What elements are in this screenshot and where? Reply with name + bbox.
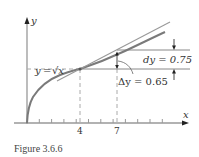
delta-y-arrow-down-icon	[115, 65, 119, 69]
tick-label-7: 7	[114, 126, 120, 136]
x-axis-arrow-icon	[182, 121, 189, 126]
figure-caption: Figure 3.6.6	[14, 143, 63, 154]
delta-y-label: Δy = 0.65	[118, 76, 168, 87]
tangent-line	[57, 22, 170, 81]
tangency-point	[78, 67, 81, 70]
dy-arrow-up-icon	[172, 69, 176, 74]
tick-label-4: 4	[77, 126, 83, 136]
svg-text:=: =	[43, 65, 51, 76]
x-axis-label: x	[183, 109, 189, 120]
figure-canvas: y x y = √x 4 7 dy = 0.75 Δy = 0.65 Figur…	[0, 0, 199, 157]
y-axis-arrow-icon	[25, 17, 30, 24]
svg-text:√x: √x	[52, 65, 64, 76]
delta-y-leader	[118, 61, 133, 74]
svg-text:y: y	[34, 65, 41, 76]
dy-label: dy = 0.75	[143, 54, 192, 65]
curve-label: y = √x	[34, 65, 64, 76]
y-axis-label: y	[30, 15, 37, 26]
dy-arrow-down-icon	[172, 46, 176, 51]
